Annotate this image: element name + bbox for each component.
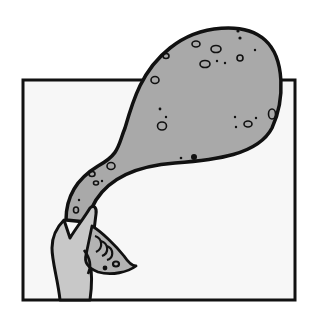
illustration: Cartoon of a hand holding a conch shell … [0, 0, 311, 313]
illustration-svg [0, 0, 311, 313]
